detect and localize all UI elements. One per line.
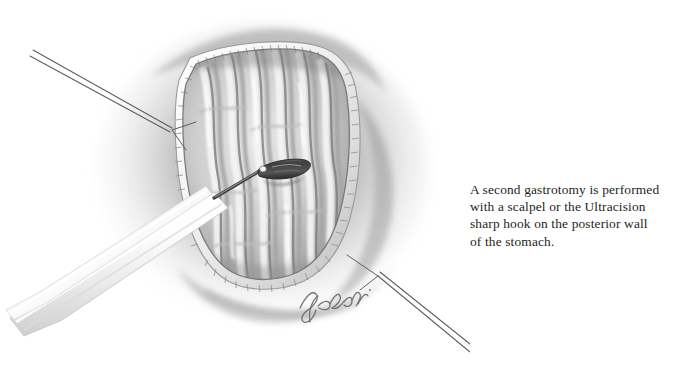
caption-line-2: with a scalpel or the Ultracision — [470, 198, 685, 215]
figure-page: A second gastrotomy is performed with a … — [0, 0, 695, 374]
figure-caption: A second gastrotomy is performed with a … — [470, 181, 685, 250]
illustration-canvas — [0, 0, 470, 374]
caption-line-4: of the stomach. — [470, 233, 685, 250]
surgical-illustration — [0, 0, 470, 374]
caption-line-1: A second gastrotomy is performed — [470, 181, 685, 198]
caption-line-3: sharp hook on the posterior wall — [470, 215, 685, 232]
